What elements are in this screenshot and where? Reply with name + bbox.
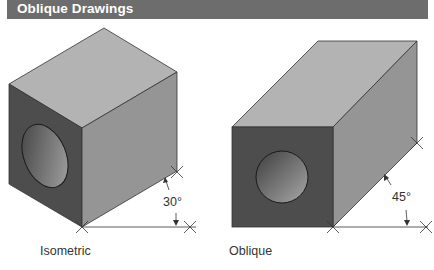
oblique-prism bbox=[232, 41, 417, 227]
drawings-canvas: 30° 45° bbox=[0, 0, 434, 270]
obl-angle-label: 45° bbox=[392, 190, 411, 204]
obl-hole bbox=[256, 151, 308, 203]
isometric-cube bbox=[9, 28, 177, 227]
iso-angle-label: 30° bbox=[163, 195, 182, 209]
oblique-caption: Oblique bbox=[229, 244, 272, 258]
isometric-caption: Isometric bbox=[40, 244, 91, 258]
